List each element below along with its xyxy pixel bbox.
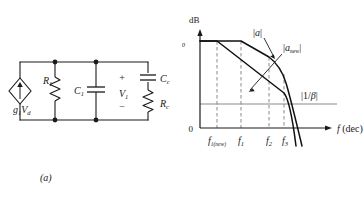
figure-container: + V1 − R1 g1Vd C1 Cc Rc (a) [0,0,364,202]
node-dot-bottom-left [53,118,58,123]
source-arrow-head [17,82,23,87]
axes-group [200,34,327,128]
capacitor-cc-label: Cc [160,73,170,85]
v1-plus-sign: + [119,72,125,83]
capacitor-cc [140,73,156,82]
dependent-source-label: g1Vd [13,104,31,116]
panel-b-bode-plot: dB a0 0 f (dec) f1(new) f1 f2 f3 |a| |an… [182,0,364,202]
circuit-schematic-svg: + V1 − R1 g1Vd C1 Cc Rc [0,0,182,202]
panel-a-circuit: + V1 − R1 g1Vd C1 Cc Rc (a) [0,0,182,202]
x-axis-label: f (dec) [337,123,363,135]
origin-label: 0 [189,124,194,134]
resistor-r1-label: R1 [42,75,52,87]
node-dot-bottom-mid [94,118,99,123]
annotation-one-over-beta-label: |1/β| [301,90,318,101]
curve-a-new [200,41,296,146]
curve-a [200,41,302,146]
capacitor-c1 [87,60,105,123]
x-tick-f1new: f1(new) [208,135,226,148]
node-dot-top-mid [94,60,99,65]
bode-plot-svg: dB a0 0 f (dec) f1(new) f1 f2 f3 |a| |an… [182,0,364,202]
capacitor-c1-label: C1 [74,85,84,97]
v1-minus-sign: − [119,101,125,112]
annotation-a-label: |a| [253,27,262,38]
resistor-r1 [50,60,60,123]
v1-label: V1 [119,88,128,100]
x-tick-f2: f2 [266,135,273,147]
resistor-rc-label: Rc [159,98,169,110]
y-axis-arrowhead [197,29,202,36]
x-tick-f3: f3 [282,135,289,147]
resistor-rc [141,90,155,112]
x-axis-arrowhead [325,125,332,130]
x-tick-f1: f1 [238,135,244,147]
annotation-a-new-label: |anew| [283,42,301,54]
node-dot-top-left [53,60,58,65]
dependent-current-source [9,78,31,104]
node-voltage-v1: + V1 − [119,72,128,112]
y-axis-label: dB [189,15,200,25]
caption-panel-a: (a) [40,172,52,183]
y-tick-a0: a0 [182,36,186,48]
leader-a-new [250,54,282,90]
